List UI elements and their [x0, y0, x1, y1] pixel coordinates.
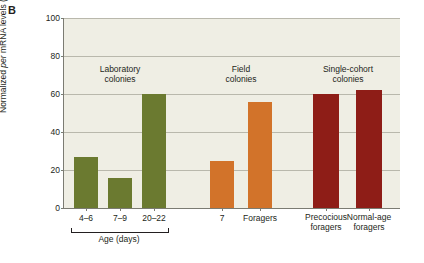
x-axis-tick-mark — [326, 208, 327, 211]
x-axis-tick-label-6: Normal-ageforagers — [347, 213, 391, 233]
x-axis-tick-mark — [154, 208, 155, 211]
group-title-line1: Laboratory — [100, 64, 141, 74]
y-axis-tick-mark — [61, 18, 64, 19]
y-axis-tick-label: 0 — [55, 203, 60, 213]
group-title-line2: colonies — [100, 74, 141, 84]
x-axis-tick-mark — [222, 208, 223, 211]
y-axis-title: Normalized per mRNA levels (%) — [0, 0, 8, 113]
x-axis-tick-label-line2: foragers — [347, 223, 391, 233]
y-axis-tick-label: 100 — [46, 13, 60, 23]
bar-5[interactable] — [313, 94, 339, 208]
y-axis-title-italic: per — [0, 55, 8, 67]
group-title-line1: Field — [225, 64, 256, 74]
group-title-line2: colonies — [323, 74, 373, 84]
y-axis-tick-mark — [61, 208, 64, 209]
x-axis-tick-mark — [260, 208, 261, 211]
y-axis-title-part3: mRNA levels (%) — [0, 0, 8, 55]
gridline — [64, 132, 400, 133]
x-axis-tick-label-1: 7–9 — [113, 213, 127, 223]
y-axis-tick-label: 60 — [51, 89, 60, 99]
y-axis-title-part1: Normalized — [0, 68, 8, 113]
bar-3[interactable] — [210, 161, 234, 209]
y-axis-tick-label: 40 — [51, 127, 60, 137]
plot-area: 0204060801004–67–920–227ForagersPrecocio… — [63, 18, 400, 209]
x-axis-tick-label-0: 4–6 — [79, 213, 93, 223]
y-axis-tick-mark — [61, 170, 64, 171]
y-axis-tick-label: 80 — [51, 51, 60, 61]
figure-panel: B 0204060801004–67–920–227ForagersPrecoc… — [0, 0, 424, 263]
bar-1[interactable] — [108, 178, 132, 208]
x-axis-tick-label-2: 20–22 — [142, 213, 166, 223]
bar-2[interactable] — [142, 94, 166, 208]
y-axis-tick-mark — [61, 132, 64, 133]
y-axis-tick-mark — [61, 94, 64, 95]
bar-4[interactable] — [248, 102, 272, 208]
x-axis-tick-label-4: Foragers — [243, 213, 277, 223]
group-title-single-cohort: Single-cohortcolonies — [323, 64, 373, 84]
y-axis-tick-label: 20 — [51, 165, 60, 175]
group-title-line2: colonies — [225, 74, 256, 84]
x-axis-tick-mark — [369, 208, 370, 211]
panel-label: B — [8, 4, 16, 16]
x-axis-tick-label-5: Precociousforagers — [305, 213, 347, 233]
y-axis-tick-mark — [61, 56, 64, 57]
x-axis-tick-mark — [120, 208, 121, 211]
bar-0[interactable] — [74, 157, 98, 208]
gridline — [64, 18, 400, 19]
gridline — [64, 56, 400, 57]
x-axis-tick-mark — [86, 208, 87, 211]
bar-6[interactable] — [356, 90, 382, 208]
x-axis-tick-label-3: 7 — [220, 213, 225, 223]
gridline — [64, 94, 400, 95]
group-title-laboratory: Laboratorycolonies — [100, 64, 141, 84]
group-title-line1: Single-cohort — [323, 64, 373, 74]
age-group-bracket — [71, 228, 169, 233]
group-title-field: Fieldcolonies — [225, 64, 256, 84]
x-axis-title: Age (days) — [98, 234, 139, 244]
x-axis-tick-label-line2: foragers — [305, 223, 347, 233]
